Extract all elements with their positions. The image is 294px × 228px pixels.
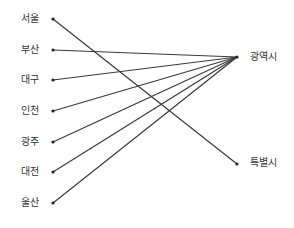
left-label-gwangju: 광주 — [21, 136, 39, 148]
connection-line — [53, 19, 237, 164]
left-dot — [51, 201, 54, 204]
connection-line — [53, 57, 237, 80]
left-dot — [51, 48, 54, 51]
connection-lines — [0, 0, 294, 228]
left-label-busan: 부산 — [21, 44, 39, 56]
right-dot — [235, 162, 238, 165]
left-dot — [51, 170, 54, 173]
left-dot — [51, 17, 54, 20]
left-label-incheon: 인천 — [21, 105, 39, 117]
left-label-seoul: 서울 — [21, 13, 39, 25]
left-label-daejeon: 대전 — [21, 166, 39, 178]
right-dot — [235, 55, 238, 58]
right-label-metropolitan-city: 광역시 — [250, 51, 277, 63]
left-dot — [51, 78, 54, 81]
left-dot — [51, 140, 54, 143]
connection-line — [53, 50, 237, 57]
connection-line — [53, 57, 237, 172]
right-label-special-city: 특별시 — [250, 157, 277, 169]
left-dot — [51, 109, 54, 112]
connection-line — [53, 57, 237, 203]
left-label-daegu: 대구 — [21, 74, 39, 86]
left-label-ulsan: 울산 — [21, 197, 39, 209]
connection-line — [53, 57, 237, 111]
